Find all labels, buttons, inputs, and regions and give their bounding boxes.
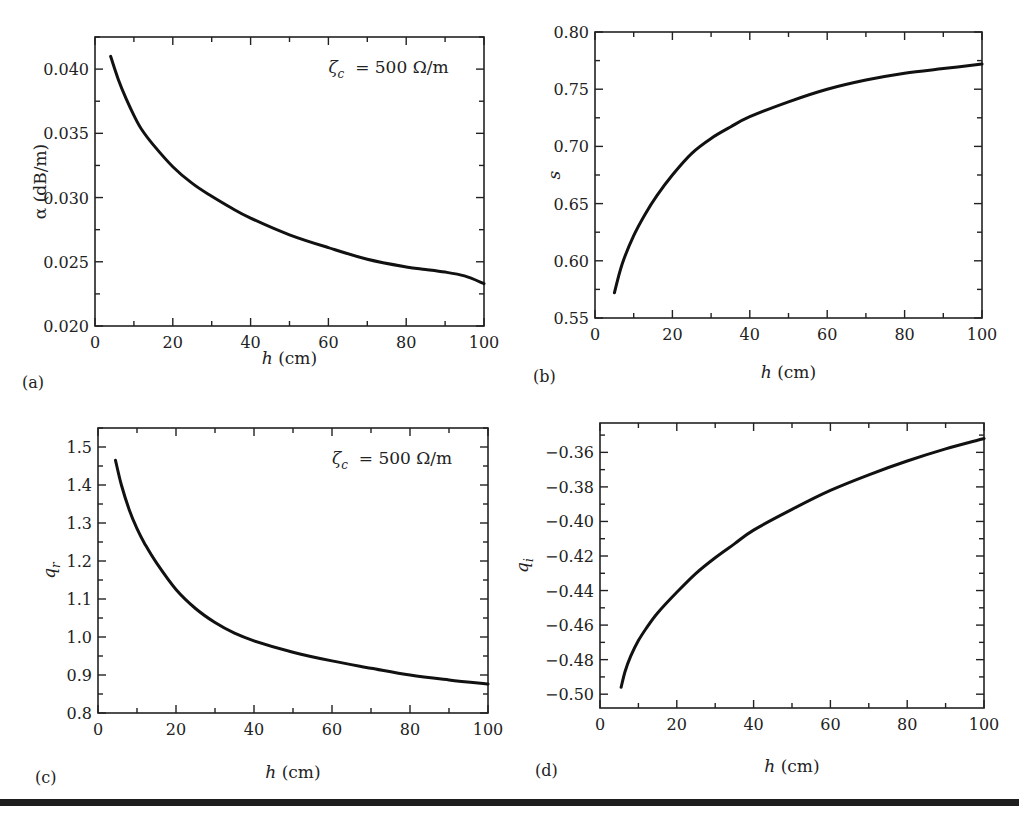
x-tick-label: 40	[244, 720, 264, 739]
x-tick-label: 0	[90, 333, 100, 352]
chart-panel-d: 020406080100−0.50−0.48−0.46−0.44−0.42−0.…	[512, 423, 999, 780]
y-axis-label: α (dB/m)	[30, 144, 50, 219]
x-tick-label: 60	[318, 333, 338, 352]
x-tick-label: 60	[817, 325, 837, 344]
x-tick-label: 80	[396, 333, 416, 352]
plot-frame	[600, 423, 984, 708]
x-tick-label: 40	[240, 333, 260, 352]
y-tick-label: 1.1	[67, 590, 92, 609]
y-tick-label: 1.4	[67, 476, 92, 495]
plot-frame	[95, 37, 484, 326]
data-curve-alpha	[111, 56, 484, 283]
bottom-rule-divider	[0, 799, 1019, 806]
x-tick-label: 0	[93, 720, 103, 739]
y-tick-label: 1.3	[67, 514, 92, 533]
y-tick-label: −0.50	[545, 685, 594, 704]
x-tick-label: 80	[894, 325, 914, 344]
y-tick-label: 0.8	[67, 704, 92, 723]
y-axis-label: s	[544, 170, 564, 179]
impedance-annotation: ζc = 500 Ω/m	[328, 57, 448, 81]
x-axis-label: h (cm)	[262, 348, 317, 368]
y-tick-label: −0.46	[545, 616, 594, 635]
x-tick-label: 60	[820, 715, 840, 734]
panel-label: (b)	[533, 367, 556, 386]
panel-label: (d)	[535, 761, 558, 780]
x-tick-label: 20	[163, 333, 183, 352]
figure-canvas: 0204060801000.0200.0250.0300.0350.040h (…	[0, 0, 1019, 816]
y-tick-label: 0.9	[67, 666, 92, 685]
panel-label: (a)	[22, 373, 44, 392]
y-tick-label: 0.65	[553, 195, 589, 214]
y-tick-label: 0.025	[43, 253, 89, 272]
y-tick-label: 0.55	[553, 309, 589, 328]
x-axis-label: h (cm)	[764, 756, 819, 776]
x-tick-label: 100	[473, 720, 504, 739]
y-tick-label: −0.36	[545, 443, 594, 462]
y-tick-label: −0.48	[545, 651, 594, 670]
x-tick-label: 40	[740, 325, 760, 344]
data-curve-s	[614, 64, 982, 293]
y-tick-label: 0.040	[43, 60, 89, 79]
y-tick-label: −0.42	[545, 547, 594, 566]
x-tick-label: 20	[667, 715, 687, 734]
x-tick-label: 0	[595, 715, 605, 734]
y-tick-label: 0.70	[553, 137, 589, 156]
x-tick-label: 40	[743, 715, 763, 734]
chart-panel-c: 0204060801000.80.91.01.11.21.31.41.5h (c…	[35, 428, 503, 787]
x-axis-label: h (cm)	[761, 362, 816, 382]
y-tick-label: 0.75	[553, 80, 589, 99]
y-tick-label: 0.030	[43, 189, 89, 208]
x-tick-label: 0	[590, 325, 600, 344]
y-tick-label: −0.40	[545, 512, 594, 531]
y-tick-label: 0.80	[553, 23, 589, 42]
y-tick-label: −0.38	[545, 478, 594, 497]
x-tick-label: 20	[662, 325, 682, 344]
plot-frame	[595, 32, 982, 318]
x-tick-label: 80	[897, 715, 917, 734]
y-axis-label: qi	[512, 558, 536, 573]
y-tick-label: 1.5	[67, 438, 92, 457]
x-tick-label: 20	[166, 720, 186, 739]
plot-frame	[98, 428, 488, 713]
y-tick-label: −0.44	[545, 582, 594, 601]
x-tick-label: 80	[400, 720, 420, 739]
chart-panel-a: 0204060801000.0200.0250.0300.0350.040h (…	[22, 37, 499, 392]
x-tick-label: 100	[967, 325, 998, 344]
data-curve-q_r	[116, 460, 489, 684]
y-tick-label: 0.035	[43, 124, 89, 143]
y-tick-label: 0.020	[43, 317, 89, 336]
x-tick-label: 60	[322, 720, 342, 739]
x-axis-label: h (cm)	[265, 762, 320, 782]
impedance-annotation: ζc = 500 Ω/m	[332, 448, 452, 472]
panel-label: (c)	[35, 768, 56, 787]
data-curve-q_i	[621, 439, 984, 688]
x-tick-label: 100	[969, 715, 1000, 734]
y-tick-label: 1.0	[67, 628, 92, 647]
y-axis-label: qr	[39, 561, 63, 579]
chart-panel-b: 0204060801000.550.600.650.700.750.80h (c…	[533, 23, 997, 386]
y-tick-label: 1.2	[67, 552, 92, 571]
x-tick-label: 100	[469, 333, 500, 352]
y-tick-label: 0.60	[553, 252, 589, 271]
